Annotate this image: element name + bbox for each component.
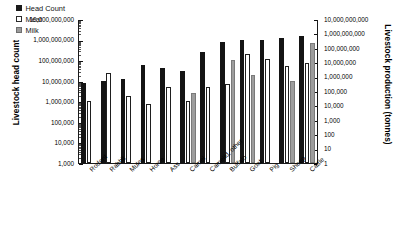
legend-item-head-count: Head Count bbox=[16, 3, 65, 13]
bar-head[interactable] bbox=[180, 71, 185, 163]
legend-swatch-head-count bbox=[16, 5, 22, 11]
bar-meat[interactable] bbox=[265, 59, 270, 163]
livestock-chart: Livestock head count Livestock productio… bbox=[0, 0, 400, 230]
y-tick-label-left: 1,000,000,000 bbox=[33, 37, 74, 43]
legend-item-milk: Milk bbox=[16, 25, 65, 35]
bar-group bbox=[79, 20, 99, 163]
bar-meat[interactable] bbox=[126, 96, 131, 163]
bar-milk[interactable] bbox=[290, 81, 295, 163]
bar-milk[interactable] bbox=[191, 93, 196, 163]
bar-head[interactable] bbox=[101, 81, 106, 163]
y-tick-label-left: 10,000,000 bbox=[42, 79, 74, 85]
bar-milk[interactable] bbox=[251, 75, 256, 163]
y-tick-label-right: 100 bbox=[324, 132, 335, 138]
legend-swatch-meat bbox=[16, 16, 22, 22]
bar-meat[interactable] bbox=[285, 66, 290, 163]
bar-group bbox=[277, 20, 297, 163]
y-axis-right-ticks: 10,000,000,0001,000,000,000100,000,00010… bbox=[322, 0, 382, 230]
bar-head[interactable] bbox=[200, 52, 205, 163]
legend-label-milk: Milk bbox=[26, 26, 39, 35]
legend-item-meat: Meat bbox=[16, 14, 65, 24]
x-axis-category-labels: RodentRabbitMulesHorseAssCamelCamelid, o… bbox=[78, 166, 318, 230]
y-tick-label-left: 10,000 bbox=[54, 140, 74, 146]
bar-meat[interactable] bbox=[146, 104, 151, 163]
y-tick-label-left: 1,000,000 bbox=[46, 99, 74, 105]
legend-label-meat: Meat bbox=[26, 15, 42, 24]
y-tick-label-right: 1 bbox=[324, 161, 328, 167]
bar-groups bbox=[79, 20, 317, 163]
bar-head[interactable] bbox=[299, 36, 304, 163]
y-tick-label-right: 1,000 bbox=[324, 118, 340, 124]
bar-group bbox=[158, 20, 178, 163]
bar-group bbox=[178, 20, 198, 163]
bar-meat[interactable] bbox=[305, 63, 310, 163]
bar-head[interactable] bbox=[81, 83, 86, 163]
bar-head[interactable] bbox=[141, 65, 146, 163]
y-tick-label-right: 10,000,000,000 bbox=[324, 17, 368, 23]
legend-swatch-milk bbox=[16, 27, 22, 33]
bar-meat[interactable] bbox=[206, 87, 211, 163]
bar-head[interactable] bbox=[121, 79, 126, 163]
y-tick-label-right: 1,000,000,000 bbox=[324, 31, 365, 37]
bar-head[interactable] bbox=[260, 40, 265, 163]
plot-area bbox=[78, 20, 318, 164]
bar-meat[interactable] bbox=[106, 73, 111, 163]
y-tick-label-right: 100,000 bbox=[324, 89, 347, 95]
axis-tick-left bbox=[79, 164, 83, 165]
y-tick-label-left: 1,000 bbox=[58, 161, 74, 167]
y-tick-label-left: 100,000 bbox=[51, 120, 74, 126]
bar-group bbox=[138, 20, 158, 163]
chart-legend: Head Count Meat Milk bbox=[16, 3, 65, 36]
bar-group bbox=[297, 20, 317, 163]
bar-meat[interactable] bbox=[166, 87, 171, 163]
bar-head[interactable] bbox=[279, 38, 284, 163]
bar-head[interactable] bbox=[220, 42, 225, 163]
y-tick-label-right: 10 bbox=[324, 146, 331, 152]
bar-group bbox=[198, 20, 218, 163]
bar-group bbox=[119, 20, 139, 163]
bar-milk[interactable] bbox=[310, 43, 315, 163]
bar-group bbox=[257, 20, 277, 163]
y-tick-label-right: 1,000,000 bbox=[324, 74, 352, 80]
y-tick-label-right: 10,000,000 bbox=[324, 60, 356, 66]
bar-meat[interactable] bbox=[245, 54, 250, 163]
bar-head[interactable] bbox=[160, 68, 165, 163]
bar-meat[interactable] bbox=[186, 101, 191, 163]
y-tick-label-left: 100,000,000 bbox=[38, 58, 74, 64]
bar-meat[interactable] bbox=[87, 101, 92, 163]
bar-group bbox=[99, 20, 119, 163]
legend-label-head-count: Head Count bbox=[26, 4, 65, 13]
y-axis-right-title: Livestock production (tonnes) bbox=[383, 20, 392, 150]
y-tick-label-right: 10,000 bbox=[324, 103, 344, 109]
y-tick-label-right: 100,000,000 bbox=[324, 46, 360, 52]
